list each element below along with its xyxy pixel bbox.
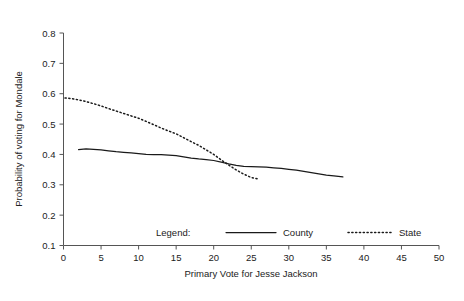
y-axis: 0.10.20.30.40.50.60.70.8 <box>42 28 63 252</box>
x-axis: 05101520253035404550 <box>61 246 444 263</box>
x-tick-label: 25 <box>246 252 257 263</box>
x-tick-label: 0 <box>61 252 66 263</box>
y-tick-label: 0.7 <box>42 58 55 69</box>
plot-area <box>65 98 343 179</box>
chart-container: 0.10.20.30.40.50.60.70.8 051015202530354… <box>0 0 464 301</box>
y-axis-title: Probability of voting for Mondale <box>13 71 24 207</box>
x-tick-label: 50 <box>434 252 445 263</box>
legend: Legend: County State <box>156 227 421 238</box>
y-tick-label: 0.2 <box>42 210 55 221</box>
x-tick-label: 15 <box>171 252 182 263</box>
x-tick-label: 10 <box>133 252 144 263</box>
y-axis-ticks <box>60 33 64 246</box>
legend-label-county: County <box>283 227 313 238</box>
x-tick-label: 20 <box>208 252 219 263</box>
x-axis-title: Primary Vote for Jesse Jackson <box>184 268 317 279</box>
y-tick-label: 0.3 <box>42 179 55 190</box>
y-axis-tick-labels: 0.10.20.30.40.50.60.70.8 <box>42 28 55 252</box>
series-line-state <box>65 98 257 179</box>
legend-title: Legend: <box>156 227 190 238</box>
line-chart: 0.10.20.30.40.50.60.70.8 051015202530354… <box>0 0 464 301</box>
legend-label-state: State <box>399 227 421 238</box>
x-axis-ticks <box>64 246 440 250</box>
x-tick-label: 5 <box>98 252 103 263</box>
y-tick-label: 0.6 <box>42 88 55 99</box>
y-tick-label: 0.8 <box>42 28 55 39</box>
y-tick-label: 0.5 <box>42 119 55 130</box>
x-axis-tick-labels: 05101520253035404550 <box>61 252 444 263</box>
x-tick-label: 35 <box>321 252 332 263</box>
x-tick-label: 40 <box>359 252 370 263</box>
x-tick-label: 30 <box>284 252 295 263</box>
y-tick-label: 0.1 <box>42 240 55 251</box>
y-tick-label: 0.4 <box>42 149 55 160</box>
x-tick-label: 45 <box>396 252 407 263</box>
